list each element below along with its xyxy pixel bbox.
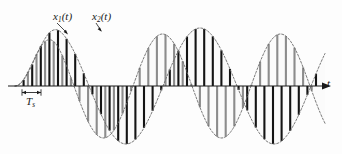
- sample-bar: [31, 65, 33, 86]
- sample-bar: [276, 35, 278, 86]
- sample-bar: [57, 30, 59, 86]
- label-sample-period: Ts: [26, 96, 35, 109]
- sample-bar: [61, 56, 63, 86]
- label-sample-period-sub: s: [32, 101, 35, 109]
- label-signal-2-paren: (t): [101, 10, 111, 22]
- sample-bar: [126, 86, 128, 144]
- sample-bar: [156, 36, 158, 86]
- sample-bar: [139, 68, 141, 86]
- sample-bar: [100, 86, 102, 114]
- sample-bar: [48, 33, 50, 86]
- sample-bar: [285, 36, 287, 86]
- sample-bar: [195, 29, 197, 86]
- sample-bar: [121, 86, 123, 114]
- label-time-axis: t: [327, 78, 330, 89]
- sample-bar: [35, 54, 37, 86]
- sample-bar: [293, 48, 295, 86]
- sample-bar: [268, 44, 270, 86]
- sample-bar: [40, 46, 42, 86]
- sample-bar: [53, 42, 55, 86]
- sample-bar: [109, 86, 111, 131]
- sample-bar: [147, 48, 149, 86]
- sample-bar: [173, 44, 175, 86]
- sample-bar: [182, 61, 184, 86]
- sample-bar: [220, 50, 222, 86]
- sample-bar: [117, 86, 119, 141]
- label-signal-1: x1(t): [53, 11, 72, 24]
- sample-bar: [199, 86, 201, 107]
- sample-bar: [298, 86, 300, 115]
- label-leader-lines: [57, 23, 102, 35]
- sample-bar: [104, 86, 106, 138]
- sample-bar: [87, 86, 89, 121]
- sample-bar: [186, 37, 188, 86]
- sample-bar: [255, 86, 257, 128]
- sample-bar: [289, 86, 291, 131]
- sample-bar: [96, 86, 98, 135]
- sample-bar: [66, 39, 68, 86]
- sample-bar: [242, 86, 244, 108]
- label-signal-2: x2(t): [92, 11, 111, 24]
- sample-bar: [134, 86, 136, 139]
- sample-bar: [203, 29, 205, 86]
- waveform-plot: [0, 0, 342, 154]
- sample-bar: [113, 86, 115, 130]
- sampling-figure: x1(t) x2(t) Ts t: [0, 0, 342, 154]
- sample-bar: [259, 62, 261, 86]
- sample-bar: [216, 86, 218, 137]
- sample-bar: [152, 86, 154, 111]
- sample-bar: [44, 42, 46, 87]
- sample-bar: [225, 86, 227, 137]
- sample-bar: [74, 54, 76, 86]
- sample-bar: [27, 72, 29, 86]
- sample-bar: [207, 86, 209, 126]
- sample-bar: [281, 86, 283, 141]
- sample-bar: [143, 86, 145, 128]
- sample-bar: [177, 51, 179, 86]
- label-signal-1-paren: (t): [62, 10, 72, 22]
- sample-bar: [272, 86, 274, 144]
- sample-bar: [233, 86, 235, 126]
- sample-bar: [212, 36, 214, 86]
- sample-bar: [263, 86, 265, 139]
- sample-bar: [306, 86, 308, 95]
